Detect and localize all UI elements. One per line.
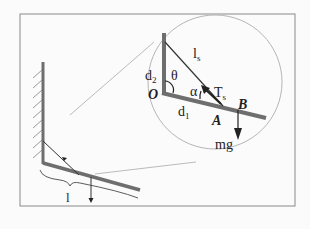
cable <box>43 141 79 175</box>
magnifier-connector-top <box>70 42 154 115</box>
label-alpha: α <box>190 84 198 99</box>
label-O: O <box>148 87 158 102</box>
label-A: A <box>211 113 221 128</box>
label-mg: mg <box>215 137 233 152</box>
wall-hatch <box>33 70 42 158</box>
label-theta: θ <box>171 68 178 83</box>
magnifier-connector-bottom <box>95 162 196 174</box>
length-label: l <box>66 190 70 205</box>
diagram-canvas: l d2 θ ls α Ts O B A d1 mg <box>0 0 310 229</box>
weight-arrowhead-small <box>89 198 94 203</box>
label-B: B <box>237 97 247 112</box>
